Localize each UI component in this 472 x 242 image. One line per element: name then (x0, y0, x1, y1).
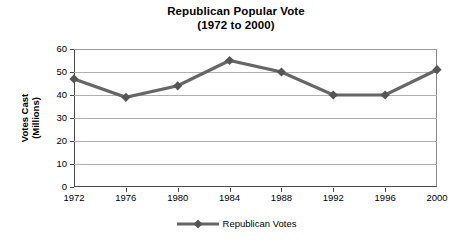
y-axis-tick-mark (70, 49, 74, 50)
chart-title: Republican Popular Vote (1972 to 2000) (0, 4, 472, 32)
legend-label-republican-votes: Republican Votes (223, 218, 297, 229)
plot-area (74, 49, 437, 187)
x-axis-tick-mark (333, 188, 334, 192)
y-axis-title-line1: Votes Cast (19, 94, 30, 142)
y-axis-tick-label: 60 (41, 44, 67, 54)
x-axis-tick-label: 1984 (210, 192, 250, 203)
x-axis-tick-mark (178, 188, 179, 192)
x-axis-tick-label: 1988 (261, 192, 301, 203)
y-axis-tick-label: 20 (41, 136, 67, 146)
y-axis-tick-mark (70, 95, 74, 96)
chart-title-line2: (1972 to 2000) (0, 18, 472, 32)
y-axis-tick-label: 10 (41, 159, 67, 169)
y-axis-title-line2: (Millions) (30, 94, 41, 142)
chart-title-line1: Republican Popular Vote (167, 5, 305, 17)
y-axis-tick-mark (70, 164, 74, 165)
chart-legend: Republican Votes (0, 218, 472, 229)
x-axis-tick-mark (230, 188, 231, 192)
chart-container: Republican Popular Vote (1972 to 2000) V… (0, 0, 472, 242)
data-point-marker (69, 74, 78, 83)
data-point-marker (329, 90, 338, 99)
x-axis-tick-label: 1980 (158, 192, 198, 203)
y-axis-tick-mark (70, 187, 74, 188)
y-axis-tick-mark (70, 118, 74, 119)
series-line (74, 61, 437, 98)
x-axis-tick-label: 1976 (106, 192, 146, 203)
x-axis-tick-label: 1996 (365, 192, 405, 203)
series-republican-votes (74, 49, 437, 187)
x-axis-tick-label: 1992 (313, 192, 353, 203)
data-point-marker (121, 93, 130, 102)
y-axis-tick-label: 0 (41, 182, 67, 192)
x-axis-tick-label: 1972 (54, 192, 94, 203)
y-axis-tick-label: 40 (41, 90, 67, 100)
y-axis-tick-label: 30 (41, 113, 67, 123)
data-point-marker (277, 67, 286, 76)
y-axis-title: Votes Cast (Millions) (16, 49, 44, 187)
y-axis-tick-mark (70, 72, 74, 73)
x-axis-tick-mark (281, 188, 282, 192)
x-axis-tick-mark (385, 188, 386, 192)
y-axis-tick-mark (70, 141, 74, 142)
legend-line-marker-icon (176, 219, 220, 229)
y-axis-tick-label: 50 (41, 67, 67, 77)
x-axis-tick-mark (126, 188, 127, 192)
x-axis-tick-label: 2000 (417, 192, 457, 203)
